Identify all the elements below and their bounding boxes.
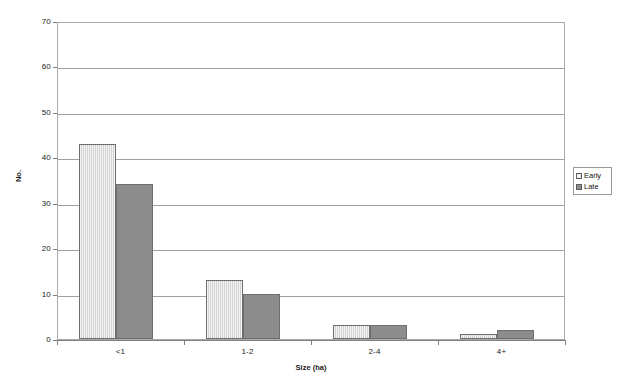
x-tick-mark bbox=[57, 341, 58, 345]
chart-legend: Early Late bbox=[573, 167, 612, 195]
bar-early-2-4 bbox=[333, 325, 370, 339]
plot-area bbox=[57, 22, 565, 340]
y-tick-label: 70 bbox=[5, 18, 51, 26]
x-category-label-lt1: <1 bbox=[57, 347, 184, 356]
y-axis-title: No. bbox=[15, 170, 23, 182]
y-tick-label: 10 bbox=[5, 291, 51, 299]
bar-late-1-2 bbox=[243, 294, 280, 339]
x-tick-mark bbox=[438, 341, 439, 345]
y-tick-label: 40 bbox=[5, 154, 51, 162]
bar-early-lt1 bbox=[79, 144, 116, 339]
legend-label-late: Late bbox=[584, 182, 599, 191]
x-tick-mark bbox=[184, 341, 185, 345]
x-category-label-2-4: 2-4 bbox=[311, 347, 438, 356]
x-axis-title: Size (ha) bbox=[57, 363, 565, 372]
y-axis-tick-labels: 70 60 50 40 30 20 10 0 bbox=[0, 0, 51, 386]
bar-chart: 70 60 50 40 30 20 10 0 No. bbox=[0, 0, 636, 386]
gridline-50 bbox=[58, 114, 564, 115]
x-tick-mark bbox=[311, 341, 312, 345]
y-tick-label: 30 bbox=[5, 200, 51, 208]
gridline-60 bbox=[58, 68, 564, 69]
legend-swatch-icon bbox=[576, 184, 582, 190]
bar-late-4plus bbox=[497, 330, 534, 339]
legend-item-early: Early bbox=[576, 170, 609, 181]
bar-early-4plus bbox=[460, 334, 497, 339]
y-tick-label: 20 bbox=[5, 245, 51, 253]
x-tick-mark bbox=[565, 341, 566, 345]
legend-swatch-icon bbox=[576, 173, 582, 179]
x-category-label-4plus: 4+ bbox=[438, 347, 565, 356]
y-tick-label: 0 bbox=[5, 336, 51, 344]
x-category-label-1-2: 1-2 bbox=[184, 347, 311, 356]
y-tick-label: 50 bbox=[5, 109, 51, 117]
bar-late-lt1 bbox=[116, 184, 153, 339]
legend-label-early: Early bbox=[584, 171, 601, 180]
bar-early-1-2 bbox=[206, 280, 243, 339]
legend-item-late: Late bbox=[576, 181, 609, 192]
gridline-40 bbox=[58, 159, 564, 160]
y-tick-label: 60 bbox=[5, 63, 51, 71]
bar-late-2-4 bbox=[370, 325, 407, 339]
